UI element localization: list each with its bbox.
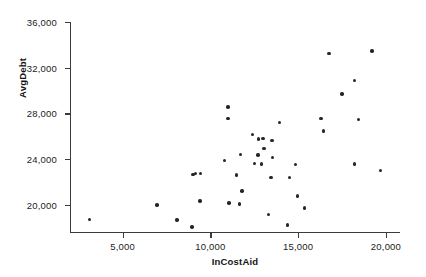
data-point — [257, 137, 260, 140]
y-tick: 36,000 — [65, 22, 70, 23]
y-tick-label: 36,000 — [27, 17, 57, 28]
y-tick: 24,000 — [65, 159, 70, 160]
x-axis-line — [70, 232, 400, 233]
x-tick — [210, 233, 211, 238]
x-tick-label: 20,000 — [371, 241, 401, 252]
data-point — [353, 162, 356, 165]
data-point — [235, 173, 238, 176]
x-tick — [123, 233, 124, 238]
y-tick-label: 24,000 — [27, 153, 57, 164]
x-tick — [386, 233, 387, 238]
plot-area: 20,00024,00028,00032,00036,000 5,00010,0… — [70, 22, 400, 232]
data-point — [260, 162, 263, 165]
scatter-plot-figure: 20,00024,00028,00032,00036,000 5,00010,0… — [0, 0, 426, 277]
data-point — [238, 202, 241, 205]
y-tick-label: 28,000 — [27, 108, 57, 119]
y-tick-label: 20,000 — [27, 199, 57, 210]
x-tick — [298, 233, 299, 238]
data-point — [286, 223, 289, 226]
y-tick-label: 32,000 — [27, 62, 57, 73]
y-axis-title: AvgDebt — [17, 58, 28, 98]
x-axis-title: InCostAid — [70, 256, 400, 267]
y-tick: 20,000 — [65, 205, 70, 206]
data-point — [198, 199, 201, 202]
data-point — [239, 153, 242, 156]
data-point — [261, 137, 264, 140]
data-point — [240, 189, 243, 192]
data-point — [288, 176, 291, 179]
data-point — [155, 203, 158, 206]
data-point — [269, 176, 272, 179]
x-tick-label: 10,000 — [195, 241, 225, 252]
data-point — [190, 225, 193, 228]
data-point — [88, 218, 91, 221]
data-point — [340, 92, 343, 95]
data-point — [327, 52, 330, 55]
data-point — [175, 218, 178, 221]
data-point — [319, 117, 322, 120]
data-point — [194, 172, 197, 175]
y-axis-line — [70, 22, 71, 232]
data-point — [353, 79, 356, 82]
y-tick: 32,000 — [65, 68, 70, 69]
data-point — [379, 169, 382, 172]
data-point — [267, 213, 270, 216]
data-point — [271, 156, 274, 159]
data-point — [262, 147, 265, 150]
data-point — [278, 121, 281, 124]
data-point — [270, 139, 273, 142]
data-point — [226, 105, 229, 108]
data-point — [370, 49, 373, 52]
data-point — [253, 162, 256, 165]
x-tick-label: 5,000 — [110, 241, 135, 252]
data-point — [251, 133, 254, 136]
data-point — [223, 159, 226, 162]
x-tick-label: 15,000 — [283, 241, 313, 252]
y-tick: 28,000 — [65, 113, 70, 114]
data-point — [227, 201, 230, 204]
data-point — [322, 129, 325, 132]
data-point — [256, 153, 259, 156]
data-point — [294, 163, 297, 166]
data-point — [303, 206, 306, 209]
data-point — [357, 118, 360, 121]
data-point — [226, 117, 229, 120]
data-point — [199, 172, 202, 175]
data-point — [296, 194, 299, 197]
